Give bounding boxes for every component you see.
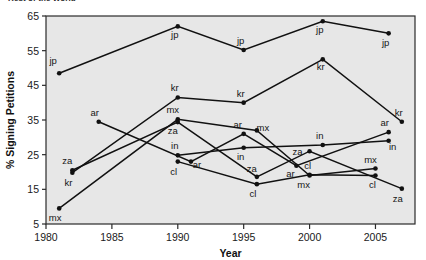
data-point-za-2007: [400, 186, 405, 191]
chart-figure: Rest of the World 5152535455565198019851…: [0, 0, 426, 260]
y-tick-label-65: 65: [27, 10, 39, 22]
point-label-mx-1990: mx: [166, 104, 179, 115]
data-point-in-1990: [175, 153, 180, 158]
data-point-cl-1996: [255, 182, 260, 187]
y-tick-label-45: 45: [27, 79, 39, 91]
data-point-za-1996: [255, 175, 260, 180]
plot-area: [46, 16, 415, 224]
point-label-za-1990: za: [168, 125, 179, 136]
x-tick-label-2000: 2000: [298, 231, 322, 243]
point-label-cl-2005: cl: [369, 179, 376, 190]
y-tick-label-5: 5: [33, 218, 39, 230]
y-tick-label-25: 25: [27, 149, 39, 161]
point-label-cl-1990: cl: [170, 166, 177, 177]
data-point-kr-1990: [175, 95, 180, 100]
data-point-ar-1984: [96, 119, 101, 124]
point-label-mx-1996: mx: [257, 122, 270, 133]
data-point-ar-1999: [294, 163, 299, 168]
point-label-in-2001: in: [316, 130, 323, 141]
y-tick-label-15: 15: [27, 183, 39, 195]
point-label-za-1982: za: [62, 155, 73, 166]
data-point-mx-1981: [57, 206, 62, 211]
x-tick-label-1990: 1990: [166, 231, 190, 243]
x-tick-label-1995: 1995: [232, 231, 256, 243]
chart-title-clipped: Rest of the World: [8, 0, 76, 3]
data-point-mx-2005: [373, 166, 378, 171]
data-point-kr-2007: [400, 119, 405, 124]
point-label-kr-1990: kr: [171, 82, 179, 93]
point-label-cl-2000: cl: [304, 160, 311, 171]
y-tick-label-35: 35: [27, 114, 39, 126]
point-label-za-1996: za: [247, 163, 258, 174]
data-point-za-2000: [307, 149, 312, 154]
data-point-jp-1990: [175, 24, 180, 29]
data-point-cl-2000: [307, 172, 312, 177]
point-label-jp-1995: jp: [236, 35, 244, 46]
y-tick-label-55: 55: [27, 45, 39, 57]
point-label-ar-1984: ar: [90, 107, 98, 118]
data-point-ar-2006: [386, 130, 391, 135]
point-label-za-2000: za: [293, 146, 304, 157]
point-label-kr-1982: kr: [64, 177, 72, 188]
point-label-kr-1995: kr: [237, 88, 245, 99]
point-label-ar-1995: ar: [233, 119, 241, 130]
data-point-jp-1995: [241, 48, 246, 53]
point-label-in-1990: in: [171, 140, 178, 151]
point-label-kr-2007: kr: [395, 107, 403, 118]
x-tick-label-2005: 2005: [364, 231, 388, 243]
point-label-cl-1996: cl: [249, 188, 256, 199]
x-tick-label-1985: 1985: [100, 231, 124, 243]
data-point-ar-1995: [241, 132, 246, 137]
data-point-kr-1995: [241, 100, 246, 105]
point-label-jp-2006: jp: [381, 37, 389, 48]
point-label-za-2007: za: [393, 193, 404, 204]
point-label-mx-1981: mx: [49, 212, 62, 223]
data-point-cl-2005: [373, 173, 378, 178]
data-point-za-1982: [70, 168, 75, 173]
y-axis-title: % Signing Petitions: [4, 71, 16, 169]
data-point-jp-1981: [57, 71, 62, 76]
data-point-za-1990: [175, 120, 180, 125]
point-label-mx-2000: mx: [297, 179, 310, 190]
point-label-jp-1981: jp: [48, 55, 56, 66]
point-label-in-1995: in: [237, 151, 244, 162]
point-label-ar-2006: ar: [380, 117, 388, 128]
x-tick-label-1980: 1980: [34, 231, 58, 243]
data-point-cl-1990: [175, 159, 180, 164]
data-point-in-2001: [320, 143, 325, 148]
point-label-mx-2005: mx: [364, 154, 377, 165]
point-label-jp-1990: jp: [170, 29, 178, 40]
point-label-jp-2001: jp: [315, 24, 323, 35]
x-axis-title: Year: [219, 247, 241, 259]
data-point-jp-2006: [386, 31, 391, 36]
data-point-in-1995: [241, 145, 246, 150]
data-point-jp-2001: [320, 19, 325, 24]
chart-svg: 5152535455565198019851990199520002005Yea…: [0, 0, 426, 260]
point-label-in-2006: in: [389, 141, 396, 152]
point-label-kr-2001: kr: [317, 61, 325, 72]
